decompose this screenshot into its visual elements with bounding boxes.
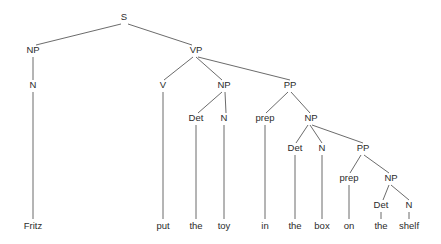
tree-node-n2: N	[221, 112, 228, 123]
tree-branch	[198, 57, 290, 80]
tree-branch	[36, 24, 121, 45]
tree-node-det2: Det	[288, 142, 303, 153]
tree-node-vp: VP	[190, 44, 203, 55]
tree-leaf-in: in	[261, 220, 268, 231]
tree-node-s: S	[121, 11, 127, 22]
tree-nodes: SNPVPNVNPPPDetNprepNPDetNPPprepNPDetN	[26, 11, 412, 210]
tree-branch	[291, 92, 310, 113]
tree-branch	[266, 92, 288, 113]
tree-leaf-the1: the	[189, 220, 202, 231]
tree-branch	[196, 57, 222, 80]
tree-canvas: SNPVPNVNPPPDetNprepNPDetNPPprepNPDetN Fr…	[0, 0, 441, 244]
tree-branch	[198, 92, 222, 113]
tree-node-n3: N	[319, 142, 326, 153]
tree-leaf-the3: the	[374, 220, 387, 231]
tree-branch	[225, 92, 226, 113]
tree-branch	[164, 57, 193, 80]
tree-leaf-the2: the	[288, 220, 301, 231]
tree-node-pp1: PP	[284, 79, 297, 90]
tree-leaf-put: put	[156, 220, 170, 231]
tree-leaf-box: box	[314, 220, 330, 231]
tree-branch	[364, 155, 389, 173]
tree-leaf-fritz: Fritz	[24, 220, 43, 231]
tree-node-np2: NP	[217, 79, 230, 90]
tree-leaf-toy: toy	[218, 220, 231, 231]
tree-leaf-on: on	[344, 220, 355, 231]
tree-node-prep1: prep	[255, 112, 274, 123]
tree-node-det1: Det	[189, 112, 204, 123]
tree-branch	[128, 24, 192, 45]
tree-node-prep2: prep	[339, 172, 358, 183]
tree-node-n1: N	[30, 79, 37, 90]
tree-node-np3: NP	[304, 112, 317, 123]
tree-branch	[296, 125, 308, 143]
tree-node-np1: NP	[26, 44, 39, 55]
tree-node-det3: Det	[374, 199, 389, 210]
tree-branch	[350, 155, 361, 173]
tree-node-np4: NP	[384, 172, 397, 183]
tree-leaves: Fritzputthetoyintheboxontheshelf	[24, 220, 420, 231]
tree-branch	[312, 125, 363, 143]
syntax-tree-diagram: SNPVPNVNPPPDetNprepNPDetNPPprepNPDetN Fr…	[0, 0, 441, 244]
tree-branch	[383, 185, 389, 200]
tree-node-pp2: PP	[357, 142, 370, 153]
tree-branch	[391, 185, 409, 200]
tree-leaf-shelf: shelf	[399, 220, 419, 231]
tree-node-v: V	[160, 79, 167, 90]
tree-node-n4: N	[406, 199, 413, 210]
